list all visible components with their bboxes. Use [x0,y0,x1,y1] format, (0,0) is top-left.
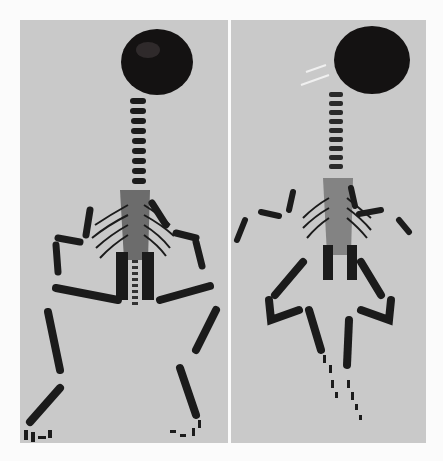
specimen-panel-right [231,20,426,443]
pelvis-right [142,252,154,300]
pelvis-right [347,245,357,280]
feet [24,420,201,442]
tail [132,260,138,305]
figure-top-margin [0,0,443,18]
skull [334,26,410,94]
skeleton-left [20,20,228,443]
vertebral-column [329,92,343,169]
hindlimbs [30,286,216,422]
vertebral-column [130,98,146,184]
skull [121,29,193,95]
forelimbs [237,188,409,240]
pelvis-left [116,252,128,300]
pelvis-left [323,245,333,280]
skeleton-right [231,20,426,443]
hyoid [301,65,329,85]
specimen-panel-left [20,20,228,443]
feet [323,355,362,420]
